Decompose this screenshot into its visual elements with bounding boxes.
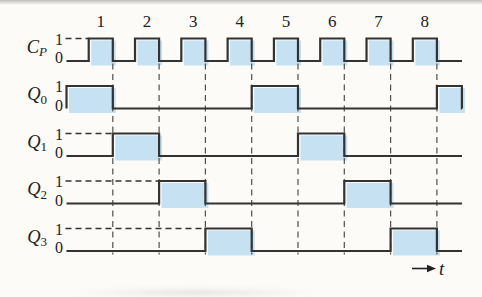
q0-high-fill [254, 88, 301, 113]
q1-level-high-label: 1 [55, 126, 63, 143]
clock-label: CP [27, 37, 47, 60]
signal-label-q0: Q0 [27, 84, 47, 107]
q3-high-fill [393, 231, 440, 256]
q1-high-fill [115, 136, 162, 161]
cp-waveform [67, 39, 463, 62]
waveform-fills [69, 41, 465, 256]
time-axis-label: t [439, 258, 445, 279]
q3-level-high-label: 1 [55, 221, 63, 238]
pulse-number-2: 2 [143, 12, 152, 31]
pulse-number-1: 1 [97, 12, 106, 31]
timing-diagram: 10CP10Q010Q110Q210Q312345678 t [0, 0, 482, 297]
q2-waveform [67, 181, 463, 204]
q2-high-fill [347, 183, 394, 208]
pulse-number-5: 5 [282, 12, 291, 31]
q2-level-high-label: 1 [55, 173, 63, 190]
pulse-number-6: 6 [328, 12, 337, 31]
signal-label-q2: Q2 [27, 179, 47, 202]
q3-high-fill [208, 231, 255, 256]
pulse-number-7: 7 [374, 12, 383, 31]
pulse-number-8: 8 [421, 12, 430, 31]
q3-level-low-label: 0 [55, 239, 63, 256]
pulse-number-3: 3 [189, 12, 198, 31]
q2-level-low-label: 0 [55, 192, 63, 209]
time-axis: t [412, 258, 445, 279]
q0-high-fill [69, 88, 116, 113]
q0-level-low-label: 0 [55, 97, 63, 114]
q1-high-fill [301, 136, 348, 161]
signal-label-q3: Q3 [27, 227, 47, 250]
time-arrow-head-icon [427, 265, 436, 273]
q2-high-fill [162, 183, 209, 208]
q1-level-low-label: 0 [55, 144, 63, 161]
q0-level-high-label: 1 [55, 78, 63, 95]
cp-level-low-label: 0 [55, 49, 63, 66]
cp-level-high-label: 1 [55, 31, 63, 48]
pulse-number-4: 4 [235, 12, 244, 31]
signal-label-q1: Q1 [27, 132, 47, 155]
